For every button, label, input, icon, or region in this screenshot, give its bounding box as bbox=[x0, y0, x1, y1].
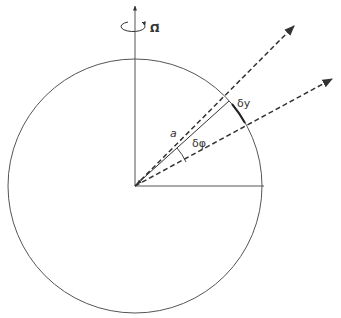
dphi-angle-arc bbox=[177, 148, 186, 162]
dphi-label: δφ bbox=[192, 138, 206, 149]
dashed-ray-lower bbox=[135, 79, 332, 186]
radius-label: a bbox=[170, 128, 177, 139]
dashed-ray-upper bbox=[135, 26, 294, 186]
rotation-arrow-icon bbox=[121, 22, 145, 32]
omega-label: Ω⃗ bbox=[150, 23, 159, 34]
dy-label: δy bbox=[237, 98, 250, 109]
sphere-diagram bbox=[0, 0, 341, 318]
